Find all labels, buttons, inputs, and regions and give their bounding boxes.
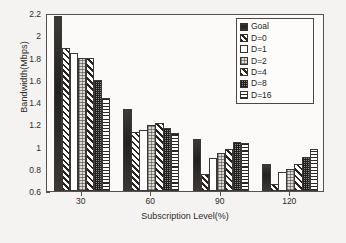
legend-item: D=4 <box>240 67 310 78</box>
y-tick-label: 1.8 <box>0 54 46 64</box>
y-tick-label: 2 <box>0 31 46 41</box>
bar-goal <box>54 16 62 191</box>
bar-group <box>54 15 110 191</box>
legend-item: D=1 <box>240 44 310 55</box>
bar-d-8 <box>94 80 102 191</box>
bar-d-16 <box>102 98 110 191</box>
bar-d-4 <box>155 123 163 191</box>
y-tick-label: 0.8 <box>0 165 46 175</box>
legend-item: D=2 <box>240 55 310 66</box>
legend-item: D=16 <box>240 89 310 100</box>
legend-item: D=8 <box>240 78 310 89</box>
bar-d-16 <box>241 143 249 191</box>
y-tick-label: 1.4 <box>0 98 46 108</box>
legend-swatch-icon <box>240 80 248 88</box>
legend-item-label: D=1 <box>251 45 267 54</box>
x-tick-mark <box>81 192 82 196</box>
legend-item-label: D=4 <box>251 68 267 77</box>
x-tick-label: 30 <box>76 196 85 206</box>
bar-d-1 <box>70 53 78 191</box>
legend-swatch-icon <box>240 34 248 42</box>
bar-d-16 <box>171 133 179 191</box>
bar-d-2 <box>286 169 294 191</box>
legend-swatch-icon <box>240 68 248 76</box>
legend-item: D=0 <box>240 32 310 43</box>
y-tick-label: 1 <box>0 143 46 153</box>
bar-d-2 <box>147 125 155 191</box>
y-tick-label: 1.6 <box>0 76 46 86</box>
y-tick-label: 1.2 <box>0 120 46 130</box>
legend-item-label: D=8 <box>251 79 267 88</box>
bar-d-8 <box>233 142 241 191</box>
legend-swatch-icon <box>240 57 248 65</box>
bar-d-1 <box>139 130 147 191</box>
legend-item-label: D=0 <box>251 34 267 43</box>
bar-d-0 <box>270 184 278 191</box>
y-tick-label: 0.6 <box>0 187 46 197</box>
x-tick-label: 90 <box>215 196 224 206</box>
bar-d-8 <box>302 157 310 191</box>
y-tick-label: 2.2 <box>0 9 46 19</box>
legend-item: Goal <box>240 21 310 32</box>
legend-swatch-icon <box>240 45 248 53</box>
bar-d-4 <box>294 164 302 191</box>
chart-legend: GoalD=0D=1D=2D=4D=8D=16 <box>236 18 314 104</box>
y-tick-mark <box>46 192 50 193</box>
bar-group <box>123 15 179 191</box>
legend-item-label: D=16 <box>251 91 272 100</box>
x-axis-title: Subscription Level(%) <box>46 211 324 221</box>
bar-d-4 <box>225 149 233 191</box>
bar-d-1 <box>278 172 286 191</box>
legend-swatch-icon <box>240 91 248 99</box>
legend-item-label: Goal <box>251 22 269 31</box>
bar-d-0 <box>62 48 70 192</box>
bar-chart-figure: Bandwidth(Mbps) 0.60.811.21.41.61.822.2 … <box>0 0 346 243</box>
bar-d-8 <box>163 128 171 191</box>
x-tick-mark <box>289 192 290 196</box>
bar-goal <box>123 109 131 191</box>
bar-d-1 <box>209 158 217 191</box>
bar-d-0 <box>201 174 209 191</box>
bar-d-2 <box>78 58 86 192</box>
bar-d-0 <box>131 132 139 191</box>
bar-goal <box>193 139 201 191</box>
legend-swatch-icon <box>240 23 248 31</box>
x-tick-mark <box>150 192 151 196</box>
x-tick-label: 120 <box>282 196 296 206</box>
bar-goal <box>262 164 270 191</box>
bar-d-4 <box>86 58 94 192</box>
legend-item-label: D=2 <box>251 57 267 66</box>
x-tick-label: 60 <box>146 196 155 206</box>
bar-d-2 <box>217 153 225 191</box>
bar-d-16 <box>310 149 318 191</box>
x-tick-mark <box>220 192 221 196</box>
